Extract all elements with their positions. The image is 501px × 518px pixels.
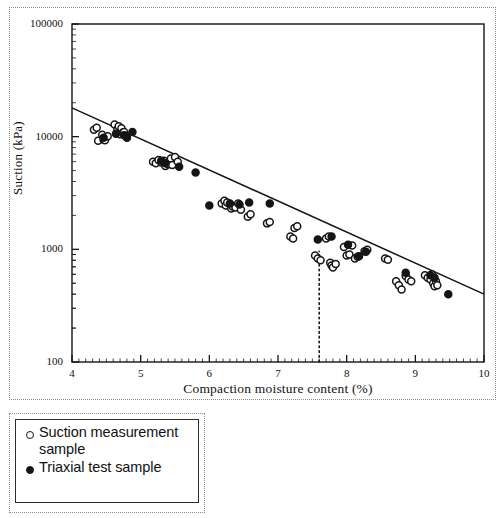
figure-root: Suction (kPa) Compaction moisture conten… bbox=[0, 0, 501, 518]
legend-entry-list: Suction measurement sampleTriaxial test … bbox=[23, 424, 195, 480]
data-point-triaxial bbox=[112, 130, 119, 137]
data-point-triaxial bbox=[314, 236, 321, 243]
data-point-triaxial bbox=[356, 253, 363, 260]
x-axis-tick-label: 5 bbox=[119, 367, 163, 379]
legend-entry-label: Suction measurement sample bbox=[39, 424, 195, 458]
data-point-triaxial bbox=[236, 201, 243, 208]
data-point-triaxial bbox=[206, 202, 213, 209]
data-point-triaxial bbox=[129, 129, 136, 136]
legend-outer-border: Suction measurement sampleTriaxial test … bbox=[9, 413, 205, 513]
data-point-suction bbox=[93, 124, 100, 131]
data-point-triaxial bbox=[226, 200, 233, 207]
data-point-triaxial bbox=[445, 291, 452, 298]
series-1-points bbox=[90, 121, 440, 293]
series-2-points bbox=[100, 129, 452, 298]
data-point-triaxial bbox=[246, 199, 253, 206]
legend-entry: Triaxial test sample bbox=[23, 459, 195, 479]
data-point-triaxial bbox=[100, 134, 107, 141]
filled-circle-icon bbox=[23, 462, 39, 479]
data-point-triaxial bbox=[176, 163, 183, 170]
data-point-triaxial bbox=[402, 269, 409, 276]
legend-entry-label: Triaxial test sample bbox=[39, 459, 161, 476]
data-point-suction bbox=[290, 235, 297, 242]
data-point-suction bbox=[384, 256, 391, 263]
x-axis-tick-label: 4 bbox=[50, 367, 94, 379]
data-point-triaxial bbox=[123, 134, 130, 141]
data-point-suction bbox=[434, 282, 441, 289]
data-point-triaxial bbox=[362, 248, 369, 255]
y-axis-tick-label: 100 bbox=[0, 355, 63, 367]
y-axis-tick-label: 10000 bbox=[0, 130, 63, 142]
open-circle-icon bbox=[23, 427, 39, 444]
y-axis-tick-label: 1000 bbox=[0, 242, 63, 254]
scatter-plot-svg bbox=[0, 0, 501, 410]
data-point-triaxial bbox=[431, 274, 438, 281]
legend-marker-dot bbox=[26, 431, 34, 439]
data-point-suction bbox=[398, 286, 405, 293]
x-axis-tick-label: 9 bbox=[393, 367, 437, 379]
x-axis-tick-label: 7 bbox=[256, 367, 300, 379]
legend-box: Suction measurement sampleTriaxial test … bbox=[15, 419, 199, 503]
data-point-suction bbox=[247, 211, 254, 218]
data-point-triaxial bbox=[266, 200, 273, 207]
y-axis-tick-label: 100000 bbox=[0, 17, 63, 29]
data-point-suction bbox=[408, 278, 415, 285]
data-point-suction bbox=[317, 257, 324, 264]
x-axis-tick-label: 6 bbox=[187, 367, 231, 379]
data-point-triaxial bbox=[345, 241, 352, 248]
x-axis-title: Compaction moisture content (%) bbox=[72, 381, 484, 397]
x-axis-tick-label: 8 bbox=[325, 367, 369, 379]
data-point-suction bbox=[294, 223, 301, 230]
data-point-triaxial bbox=[328, 233, 335, 240]
legend-marker-dot bbox=[26, 466, 34, 474]
plot-frame bbox=[72, 24, 484, 362]
data-point-triaxial bbox=[192, 169, 199, 176]
y-axis-title: Suction (kPa) bbox=[10, 78, 26, 238]
data-point-suction bbox=[332, 261, 339, 268]
legend-entry: Suction measurement sample bbox=[23, 424, 195, 458]
chart-plot-area: Suction (kPa) Compaction moisture conten… bbox=[0, 0, 501, 410]
data-point-triaxial bbox=[162, 160, 169, 167]
data-point-suction bbox=[266, 218, 273, 225]
x-axis-tick-label: 10 bbox=[462, 367, 501, 379]
